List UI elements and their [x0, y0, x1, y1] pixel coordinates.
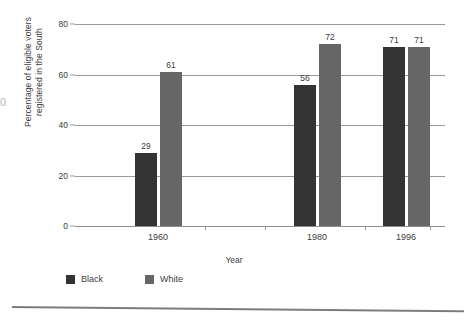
page-edge-artifact: 0: [0, 96, 8, 108]
y-tick-label-0: 0: [63, 221, 68, 231]
legend-swatch-white: [145, 275, 154, 284]
bar-1996-black[interactable]: 71: [383, 47, 405, 226]
bar-group-1980: 5672: [294, 24, 341, 226]
chart-legend: BlackWhite: [66, 274, 183, 284]
chart-figure: 0 Percentage of eligible voters register…: [0, 0, 468, 320]
y-tick-mark-40: [70, 125, 75, 126]
x-axis-tick-mark-0: [205, 226, 206, 230]
x-tick-label-1996: 1996: [396, 232, 416, 242]
bar-1980-black[interactable]: 56: [294, 85, 316, 226]
x-axis-tick-mark-2: [365, 226, 366, 230]
legend-label-black: Black: [81, 274, 103, 284]
bar-value-label-1980-black: 56: [300, 73, 309, 83]
legend-item-black[interactable]: Black: [66, 274, 103, 284]
x-axis-tick-mark-1: [265, 226, 266, 230]
bar-value-label-1996-black: 71: [389, 35, 398, 45]
legend-swatch-black: [66, 275, 75, 284]
y-axis-title-text: Percentage of eligible voters registered…: [23, 17, 45, 127]
x-axis-title: Year: [0, 255, 468, 265]
y-tick-label-40: 40: [59, 120, 68, 130]
y-tick-label-80: 80: [59, 19, 68, 29]
y-tick-mark-60: [70, 74, 75, 75]
bottom-divider-rule: [12, 306, 464, 312]
y-axis-title: Percentage of eligible voters registered…: [17, 0, 51, 172]
bar-1996-white[interactable]: 71: [408, 47, 430, 226]
bar-group-1996: 7171: [383, 24, 430, 226]
bar-1960-white[interactable]: 61: [160, 72, 182, 226]
plot-area: 020406080 296156727171 196019801996: [75, 24, 445, 226]
bar-group-1960: 2961: [135, 24, 182, 226]
bar-value-label-1996-white: 71: [414, 35, 423, 45]
y-tick-label-20: 20: [59, 171, 68, 181]
y-tick-mark-20: [70, 175, 75, 176]
bar-value-label-1960-black: 29: [141, 141, 150, 151]
x-axis-tick-mark-3: [430, 226, 431, 230]
gridline-0: [75, 226, 445, 227]
y-tick-mark-0: [70, 226, 75, 227]
x-tick-label-1960: 1960: [148, 232, 168, 242]
bar-1980-white[interactable]: 72: [319, 44, 341, 226]
bar-1960-black[interactable]: 29: [135, 153, 157, 226]
bar-value-label-1980-white: 72: [325, 32, 334, 42]
bar-value-label-1960-white: 61: [166, 60, 175, 70]
y-tick-mark-80: [70, 24, 75, 25]
y-tick-label-60: 60: [59, 70, 68, 80]
legend-label-white: White: [160, 274, 183, 284]
legend-item-white[interactable]: White: [145, 274, 183, 284]
x-tick-label-1980: 1980: [307, 232, 327, 242]
